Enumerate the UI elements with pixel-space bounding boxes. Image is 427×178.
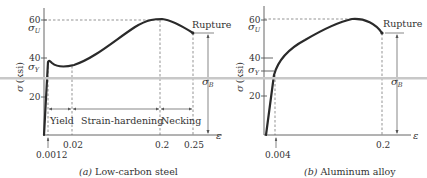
sigma-y-label: σY: [248, 64, 260, 77]
region-necking: Necking: [161, 115, 201, 126]
x-axis-label: ε: [216, 130, 221, 141]
panel-aluminum-alloy: 60 40 20 σU σY σ(ksi) Rupture σB ε 0.004…: [234, 6, 423, 177]
x-tick-0.2: 0.2: [155, 140, 169, 150]
x-axis-label: ε: [413, 130, 418, 141]
caption-b: (b)Aluminum alloy: [304, 166, 396, 177]
y-tick-20: 20: [249, 91, 261, 101]
y-tick-20: 20: [29, 92, 41, 102]
region-strain-hardening: Strain-hardening: [81, 115, 163, 126]
x-tick-0.004: 0.004: [265, 150, 291, 160]
region-yield: Yield: [49, 115, 74, 126]
caption-a: (a)Low-carbon steel: [79, 166, 178, 177]
x-tick-0.25: 0.25: [184, 140, 204, 150]
stress-strain-curve-aluminum: [266, 19, 382, 135]
rupture-label: Rupture: [383, 18, 423, 29]
x-tick-0.02: 0.02: [63, 140, 83, 150]
stress-strain-figure: 60 40 20 σU σY σ(ksi) Rupture σB ε Yield…: [0, 0, 427, 178]
rupture-label: Rupture: [192, 19, 232, 30]
horizontal-band: [0, 77, 427, 80]
x-tick-0.0012: 0.0012: [36, 150, 68, 160]
y-tick-40: 40: [249, 53, 261, 63]
panel-low-carbon-steel: 60 40 20 σU σY σ(ksi) Rupture σB ε Yield…: [14, 8, 232, 177]
x-tick-0.2: 0.2: [376, 140, 390, 150]
